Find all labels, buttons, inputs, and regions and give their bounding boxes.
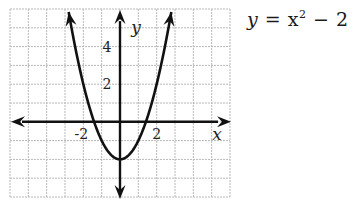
equation-lhs: y [247,8,258,30]
y-axis-label: y [130,17,141,37]
equation-base: x [288,8,299,30]
x-axis-label: x [212,124,222,144]
equation-equals: = [258,8,288,30]
equation-label: y = x2 − 2 [247,8,349,30]
y-tick-label: 2 [103,76,112,92]
axis-labels: -2224yx [75,17,223,144]
y-tick-label: 4 [103,39,112,55]
x-tick-label: -2 [75,126,89,142]
equation-rest: − 2 [306,8,348,30]
coordinate-graph: -2224yx [0,0,240,203]
x-tick-label: 2 [152,126,161,142]
